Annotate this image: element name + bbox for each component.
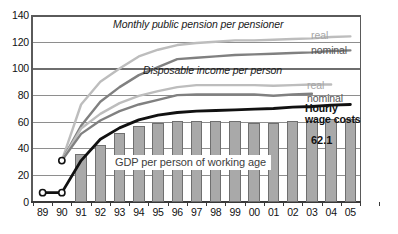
gdp-value-label: 62.1: [311, 134, 332, 146]
x-tick-mark-extra-0: [360, 202, 361, 206]
legend-income-real: real: [307, 79, 324, 91]
x-tick-mark-04: [322, 202, 323, 206]
x-tick-mark-03: [302, 202, 303, 206]
x-tick-mark-94: [129, 202, 130, 206]
income-chart-title: Disposable income per person: [143, 64, 282, 76]
x-tick-mark-93: [110, 202, 111, 206]
wage-marker-89: [40, 190, 46, 196]
x-tick-mark-97: [187, 202, 188, 206]
x-tick-mark-95: [148, 202, 149, 206]
x-tick-mark-96: [168, 202, 169, 206]
x-tick-mark-91: [71, 202, 72, 206]
gdp-series-label: GDP per person of working age: [110, 155, 271, 170]
x-tick-mark-89: [33, 202, 34, 206]
x-tick-mark-01: [264, 202, 265, 206]
legend-pension-real: real: [311, 29, 328, 41]
wage-marker-90-top: [59, 157, 65, 163]
chart-container: 140 120 100 80 60 40 20 0: [0, 0, 398, 234]
x-tick-mark-extra-1: [379, 202, 380, 206]
x-tick-mark-99: [225, 202, 226, 206]
x-tick-mark-02: [283, 202, 284, 206]
pension-chart-title: Monthly public pension per pensioner: [113, 18, 283, 30]
series-income-real: [62, 84, 331, 160]
x-tick-mark-90: [52, 202, 53, 206]
wage-marker-90: [59, 190, 65, 196]
x-tick-mark-05: [341, 202, 342, 206]
x-tick-label-05: 05: [339, 206, 361, 218]
legend-hourly-wage-costs-line2: wage costs: [305, 114, 361, 125]
legend-pension-nominal: nominal: [311, 44, 347, 56]
x-tick-mark-92: [91, 202, 92, 206]
x-tick-mark-00: [245, 202, 246, 206]
x-tick-mark-98: [206, 202, 207, 206]
